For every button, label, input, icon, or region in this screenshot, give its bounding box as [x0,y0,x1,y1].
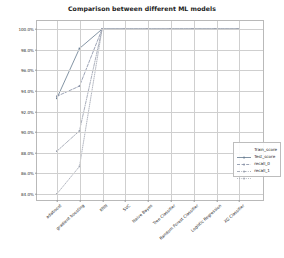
gridline-vertical [171,21,172,200]
x-axis-tick-mark [194,200,195,202]
x-axis-tick-label: Random Forest Classifier [158,203,199,241]
legend-line-sample [236,160,252,167]
y-axis-tick-label: 86.0% [21,171,34,176]
y-axis-tick-mark [35,91,37,92]
gridline-horizontal [37,132,263,133]
x-axis-tick-label: KNN [98,203,108,213]
y-axis-tick-label: 94.0% [21,88,34,93]
chart-figure: Comparison between different ML models 8… [0,0,284,258]
x-axis-tick-mark [102,200,103,202]
x-axis-tick-mark [57,200,58,202]
y-axis-tick-mark [35,111,37,112]
y-axis-tick-label: 92.0% [21,109,34,114]
gridline-vertical [148,21,149,200]
legend-item-label: recall_1 [254,168,270,173]
y-axis-tick-mark [35,193,37,194]
x-axis-tick-mark [171,200,172,202]
y-axis-tick-mark [35,132,37,133]
x-axis-tick-mark [148,200,149,202]
x-axis-tick-label: SVC [122,203,131,212]
gridline-vertical [103,21,104,200]
plot-area: 84.0%86.0%88.0%90.0%92.0%94.0%96.0%98.0%… [36,20,264,201]
legend-item[interactable]: Test_score [236,153,277,160]
legend-item[interactable]: recall_1 [236,167,277,174]
x-axis-tick-mark [80,200,81,202]
legend-line-sample [236,167,252,174]
gridline-vertical [194,21,195,200]
legend-item-label: Test_score [254,154,275,159]
x-axis-tick-label: adaboost [45,203,62,219]
chart-title: Comparison between different ML models [0,5,284,12]
y-axis-tick-label: 96.0% [21,68,34,73]
y-axis-tick-label: 100.0% [18,27,34,32]
legend-item-label: recall_0 [254,161,270,166]
gridline-horizontal [37,112,263,113]
x-axis-tick-label: Naive Bayes [132,203,154,224]
x-axis-tick-mark [216,200,217,202]
legend-line-sample [236,153,252,160]
y-axis-tick-label: 90.0% [21,130,34,135]
gridline-horizontal [37,153,263,154]
gridline-horizontal [37,70,263,71]
legend-line-sample [236,146,252,153]
gridline-horizontal [37,29,263,30]
y-axis-tick-mark [35,49,37,50]
y-axis-tick-label: 88.0% [21,150,34,155]
gridline-vertical [217,21,218,200]
y-axis-tick-mark [35,29,37,30]
gridline-vertical [80,21,81,200]
y-axis-tick-label: 84.0% [21,191,34,196]
gridline-vertical [125,21,126,200]
gridline-horizontal [37,91,263,92]
x-axis-tick-mark [239,200,240,202]
chart-legend: Train_scoreTest_scorerecall_0recall_1 [233,142,281,177]
gridline-horizontal [37,194,263,195]
legend-item[interactable]: recall_0 [236,160,277,167]
x-axis-tick-mark [125,200,126,202]
gridline-horizontal [37,50,263,51]
x-axis-tick-label: XG Classifier [222,203,245,224]
gridline-horizontal [37,173,263,174]
y-axis-tick-label: 98.0% [21,47,34,52]
legend-item-label: Train_score [254,147,277,152]
y-axis-tick-mark [35,173,37,174]
y-axis-tick-mark [35,70,37,71]
legend-item[interactable]: Train_score [236,146,277,153]
y-axis-tick-mark [35,152,37,153]
gridline-vertical [57,21,58,200]
